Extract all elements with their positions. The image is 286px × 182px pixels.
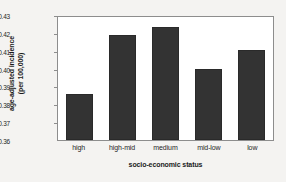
- bar-high: [66, 94, 93, 140]
- x-axis-tick-label-medium: medium: [146, 144, 185, 151]
- y-axis-tick-label: 0.37: [0, 120, 10, 127]
- x-axis-title: socio-economic status: [57, 161, 274, 168]
- bars-group: [58, 17, 273, 140]
- bar-slot: [146, 17, 185, 140]
- y-axis-tick-mark: [54, 87, 57, 88]
- y-axis-tick-label: 0.40: [0, 66, 10, 73]
- y-axis-tick-label: 0.42: [0, 30, 10, 37]
- bar-mid-low: [195, 69, 222, 140]
- bar-high-mid: [109, 35, 136, 140]
- plot-area: [57, 16, 274, 141]
- bar-slot: [103, 17, 142, 140]
- y-axis-tick-label: 0.43: [0, 13, 10, 20]
- y-axis-tick-mark: [54, 70, 57, 71]
- bar-slot: [232, 17, 271, 140]
- y-axis-title: age-adjusted incidence (per 100,000): [8, 9, 25, 139]
- y-axis-tick-mark: [54, 105, 57, 106]
- bar-chart-figure: age-adjusted incidence (per 100,000) 0.4…: [0, 0, 286, 182]
- x-axis-tick-group: highhigh-midmediummid-lowlow: [57, 144, 274, 151]
- bar-slot: [189, 17, 228, 140]
- y-axis-tick-mark: [54, 123, 57, 124]
- y-axis-tick-mark: [54, 16, 57, 17]
- x-axis-tick-label-low: low: [233, 144, 272, 151]
- y-axis-tick-label: 0.39: [0, 84, 10, 91]
- y-axis-tick-mark: [54, 52, 57, 53]
- bar-medium: [152, 27, 179, 140]
- y-axis-title-line-1: age-adjusted incidence: [8, 36, 15, 111]
- x-axis-tick-label-high-mid: high-mid: [103, 144, 142, 151]
- y-axis-title-line-2: (per 100,000): [16, 9, 25, 139]
- x-axis-tick-label-high: high: [59, 144, 98, 151]
- bar-low: [238, 50, 265, 140]
- y-axis-tick-mark: [54, 34, 57, 35]
- x-axis-tick-label-mid-low: mid-low: [189, 144, 228, 151]
- y-axis-tick-label: 0.41: [0, 48, 10, 55]
- y-axis-tick-label: 0.36: [0, 138, 10, 145]
- bar-slot: [60, 17, 99, 140]
- y-axis-tick-label: 0.38: [0, 102, 10, 109]
